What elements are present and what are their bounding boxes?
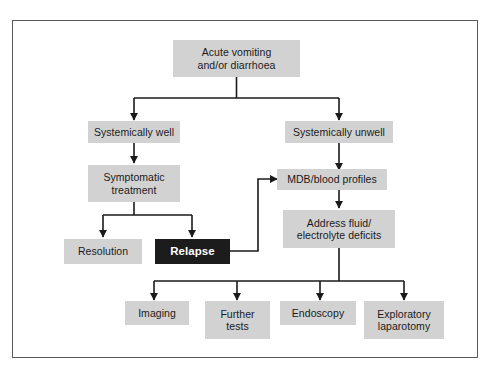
node-address-fluid-electrolyte-deficits[interactable]: Address fluid/ electrolyte deficits bbox=[283, 210, 395, 248]
node-label-line2: treatment bbox=[93, 184, 175, 197]
node-label: Systemically well bbox=[93, 126, 175, 139]
node-label-line2: electrolyte deficits bbox=[288, 229, 390, 242]
node-label: Imaging bbox=[130, 307, 184, 320]
node-label-line1: Exploratory bbox=[369, 308, 439, 321]
node-label-line1: Symptomatic bbox=[93, 171, 175, 184]
node-label-line1: Address fluid/ bbox=[288, 217, 390, 230]
node-acute-vomiting-diarrhoea[interactable]: Acute vomiting and/or diarrhoea bbox=[173, 40, 300, 77]
node-label-line1: Further bbox=[210, 308, 265, 321]
node-label: Resolution bbox=[69, 245, 137, 258]
node-label: Systemically unwell bbox=[290, 126, 388, 139]
edge-relapse-feedback bbox=[230, 179, 277, 251]
node-systemically-well[interactable]: Systemically well bbox=[88, 121, 180, 143]
node-exploratory-laparotomy[interactable]: Exploratory laparotomy bbox=[364, 301, 444, 339]
node-label-line2: tests bbox=[210, 320, 265, 333]
node-label: Relapse bbox=[160, 245, 225, 258]
node-further-tests[interactable]: Further tests bbox=[205, 301, 270, 339]
node-resolution[interactable]: Resolution bbox=[64, 239, 142, 264]
node-mdb-blood-profiles[interactable]: MDB/blood profiles bbox=[277, 169, 387, 190]
node-endoscopy[interactable]: Endoscopy bbox=[280, 301, 356, 325]
node-systemically-unwell[interactable]: Systemically unwell bbox=[285, 121, 393, 143]
node-label: Endoscopy bbox=[285, 307, 351, 320]
diagram-page: Acute vomiting and/or diarrhoea Systemic… bbox=[0, 0, 491, 374]
node-label-line1: Acute vomiting bbox=[178, 46, 295, 59]
node-relapse[interactable]: Relapse bbox=[155, 239, 230, 264]
node-label-line2: and/or diarrhoea bbox=[178, 59, 295, 72]
node-label-line2: laparotomy bbox=[369, 320, 439, 333]
node-symptomatic-treatment[interactable]: Symptomatic treatment bbox=[88, 165, 180, 202]
node-imaging[interactable]: Imaging bbox=[125, 301, 189, 325]
node-label: MDB/blood profiles bbox=[282, 173, 382, 186]
